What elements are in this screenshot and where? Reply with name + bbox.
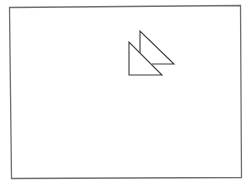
diagram-canvas <box>0 0 252 186</box>
frame-border <box>10 6 242 179</box>
back-triangle <box>140 31 174 64</box>
